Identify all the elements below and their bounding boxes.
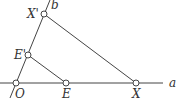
point-x: [133, 80, 139, 86]
label-e: E: [61, 87, 71, 101]
segment-e-prime-e: [28, 55, 66, 83]
label-b: b: [51, 0, 59, 12]
label-e-prime: E': [13, 48, 26, 62]
segment-x-prime-x: [44, 14, 136, 83]
label-x: X: [131, 87, 141, 101]
point-o: [13, 80, 19, 86]
point-e: [63, 80, 69, 86]
label-a: a: [169, 76, 176, 90]
label-x-prime: X': [26, 7, 39, 21]
point-x-prime: [41, 11, 47, 17]
label-o: O: [15, 87, 25, 101]
geometry-diagram: b a X' E' O E X: [0, 0, 177, 104]
